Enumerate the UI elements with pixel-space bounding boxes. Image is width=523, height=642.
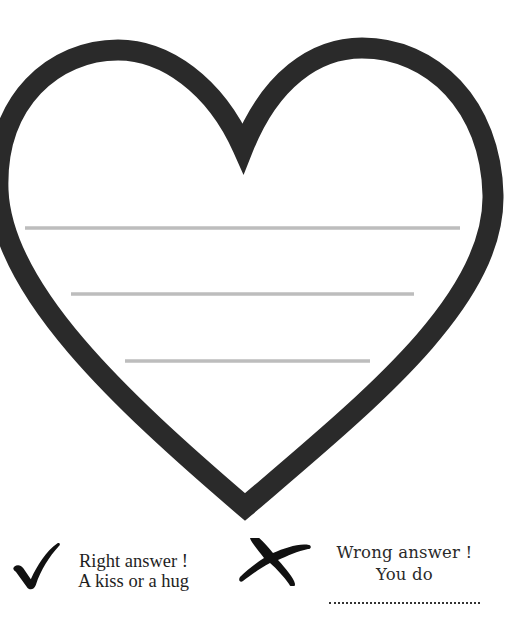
right-answer-line2: A kiss or a hug	[66, 571, 201, 591]
wrong-answer-line1: Wrong answer !	[322, 542, 487, 564]
checkmark-icon	[6, 540, 64, 590]
right-answer-line1: Right answer !	[66, 551, 201, 571]
heart-outline	[0, 0, 523, 530]
right-answer-label: Right answer ! A kiss or a hug	[66, 551, 201, 591]
dotted-blank-line	[329, 602, 480, 604]
wrong-answer-line2: You do	[322, 564, 487, 586]
wrong-answer-label: Wrong answer ! You do	[322, 542, 487, 586]
cross-icon	[237, 538, 312, 586]
